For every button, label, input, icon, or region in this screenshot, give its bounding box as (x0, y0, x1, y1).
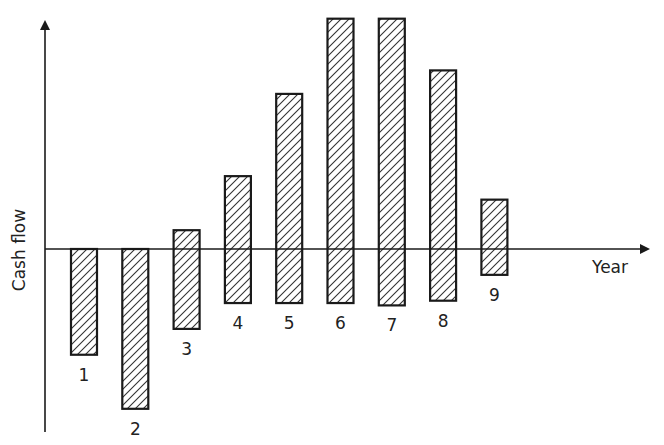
bar-year-1 (71, 249, 97, 355)
bar-year-9 (481, 200, 507, 275)
category-label: 8 (438, 311, 449, 331)
category-label: 6 (335, 313, 346, 333)
category-label: 9 (489, 285, 500, 305)
category-label: 4 (232, 313, 243, 333)
category-label: 3 (181, 339, 192, 359)
bar-year-3 (174, 230, 200, 329)
bar-year-6 (328, 19, 354, 303)
bar-year-4 (225, 176, 251, 303)
cash-flow-chart: Year Cash flow 123456789 (0, 0, 664, 445)
bar-year-2 (122, 249, 148, 409)
category-label: 2 (130, 419, 141, 439)
bar-year-7 (379, 19, 405, 306)
y-axis-label: Cash flow (9, 209, 29, 291)
x-axis-label: Year (591, 257, 628, 277)
bars-group (71, 19, 507, 409)
category-label: 5 (284, 313, 295, 333)
category-label: 7 (386, 315, 397, 335)
bar-year-8 (430, 70, 456, 300)
category-label: 1 (79, 365, 90, 385)
bar-year-5 (276, 94, 302, 303)
